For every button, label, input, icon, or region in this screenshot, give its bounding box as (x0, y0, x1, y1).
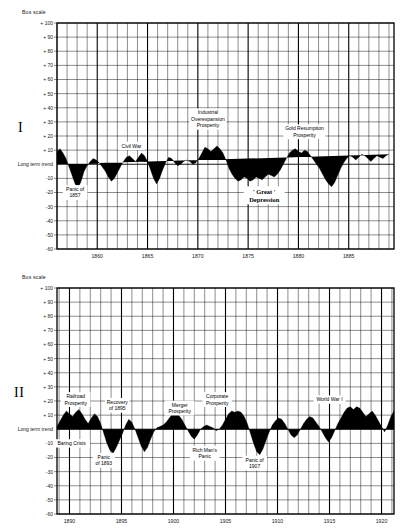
business-activity-chart: + 100+ 90+ 80+ 70+ 60+ 50+ 40+ 30+ 20+ 1… (0, 0, 401, 265)
y-tick-label: + 10 (43, 147, 53, 153)
annotation-label: Recovery (107, 399, 129, 405)
x-tick-label: 1865 (142, 253, 154, 259)
y-tick-label: + 20 (43, 398, 53, 404)
y-tick-label: -20 (46, 189, 53, 195)
y-tick-label: -30 (46, 469, 53, 475)
y-tick-label: + 30 (43, 119, 53, 125)
annotation-label: ' Great ' (253, 188, 276, 195)
y-tick-label: + 70 (43, 62, 53, 68)
x-axis-ticks: 186018651870187518801885 (91, 253, 354, 259)
y-tick-label: -50 (46, 497, 53, 503)
x-tick-label: 1875 (242, 253, 254, 259)
y-tick-label: + 40 (43, 370, 53, 376)
y-tick-label: + 60 (43, 76, 53, 82)
chart-page: Bus scaleI+ 100+ 90+ 80+ 70+ 60+ 50+ 40+… (0, 0, 401, 531)
annotation-label: Gold Resumption (285, 125, 324, 131)
annotation-label: Prosperity (168, 408, 191, 414)
y-tick-label: -60 (46, 511, 53, 517)
grid (57, 23, 394, 249)
y-tick-label: + 70 (43, 327, 53, 333)
annotation-label: 1907 (249, 463, 260, 469)
y-tick-label: -10 (46, 440, 53, 446)
annotation-label: Depression (249, 196, 280, 203)
long-term-trend-label: Long term trend (18, 161, 54, 167)
y-tick-label: -60 (46, 246, 53, 252)
business-activity-chart: + 100+ 90+ 80+ 70+ 60+ 50+ 40+ 30+ 20+ 1… (0, 265, 401, 530)
annotation-label: Prosperity (197, 122, 220, 128)
y-tick-label: + 40 (43, 105, 53, 111)
annotation-label: World War I (316, 396, 342, 402)
y-tick-label: -20 (46, 454, 53, 460)
y-tick-label: -10 (46, 175, 53, 181)
x-tick-label: 1905 (220, 518, 232, 524)
y-tick-label: -50 (46, 232, 53, 238)
y-tick-label: + 50 (43, 91, 53, 97)
y-tick-label: -30 (46, 204, 53, 210)
y-tick-label: + 90 (43, 299, 53, 305)
annotation-label: Panic of (66, 186, 85, 192)
x-tick-label: 1920 (376, 518, 388, 524)
y-axis-ticks: + 100+ 90+ 80+ 70+ 60+ 50+ 40+ 30+ 20+ 1… (18, 20, 57, 252)
y-tick-label: + 100 (40, 285, 53, 291)
annotation-label: Prosperity (206, 400, 229, 406)
y-tick-label: + 30 (43, 384, 53, 390)
x-tick-label: 1885 (343, 253, 355, 259)
annotation-label: of 1893 (95, 460, 112, 466)
annotation-label: Overexpansion (191, 116, 225, 122)
long-term-trend-label: Long term trend (18, 426, 54, 432)
chart-panel-1: Bus scaleI+ 100+ 90+ 80+ 70+ 60+ 50+ 40+… (0, 0, 401, 265)
annotation-label: Panic of (246, 457, 265, 463)
y-tick-label: + 80 (43, 48, 53, 54)
y-tick-label: + 50 (43, 356, 53, 362)
annotation-label: Rich Man's (192, 447, 217, 453)
annotation-label: Panic (98, 454, 111, 460)
x-tick-label: 1915 (324, 518, 336, 524)
annotation-label: Corporate (206, 393, 228, 399)
y-tick-label: + 100 (40, 20, 53, 26)
x-tick-label: 1860 (91, 253, 103, 259)
annotation-label: Baring Crisis (57, 440, 86, 446)
y-tick-label: -40 (46, 218, 53, 224)
chart-panel-2: Bus scaleII+ 100+ 90+ 80+ 70+ 60+ 50+ 40… (0, 265, 401, 530)
y-tick-label: + 20 (43, 133, 53, 139)
annotation-label: Industrial (198, 109, 218, 115)
annotation-label: Prosperity (293, 132, 316, 138)
annotation-label: of 1895 (109, 405, 126, 411)
annotations: Civil WarIndustrialOverexpansionProsperi… (63, 108, 326, 204)
x-tick-label: 1895 (116, 518, 128, 524)
annotation-label: Panic (198, 453, 211, 459)
business-activity-area (57, 146, 389, 188)
x-tick-label: 1880 (293, 253, 305, 259)
annotation-label: Merger (172, 402, 188, 408)
annotation-label: Railroad (66, 393, 85, 399)
x-tick-label: 1890 (64, 518, 76, 524)
annotation-label: Civil War (122, 143, 142, 149)
y-tick-label: + 60 (43, 341, 53, 347)
x-tick-label: 1910 (272, 518, 284, 524)
y-tick-label: + 10 (43, 412, 53, 418)
annotation-label: Prosperity (64, 400, 87, 406)
x-axis-ticks: 1890189519001905191019151920 (64, 518, 388, 524)
y-tick-label: + 90 (43, 34, 53, 40)
y-tick-label: + 80 (43, 313, 53, 319)
x-tick-label: 1870 (192, 253, 204, 259)
y-axis-ticks: + 100+ 90+ 80+ 70+ 60+ 50+ 40+ 30+ 20+ 1… (18, 285, 57, 517)
x-tick-label: 1900 (168, 518, 180, 524)
annotation-label: 1857 (70, 192, 81, 198)
y-tick-label: -40 (46, 483, 53, 489)
